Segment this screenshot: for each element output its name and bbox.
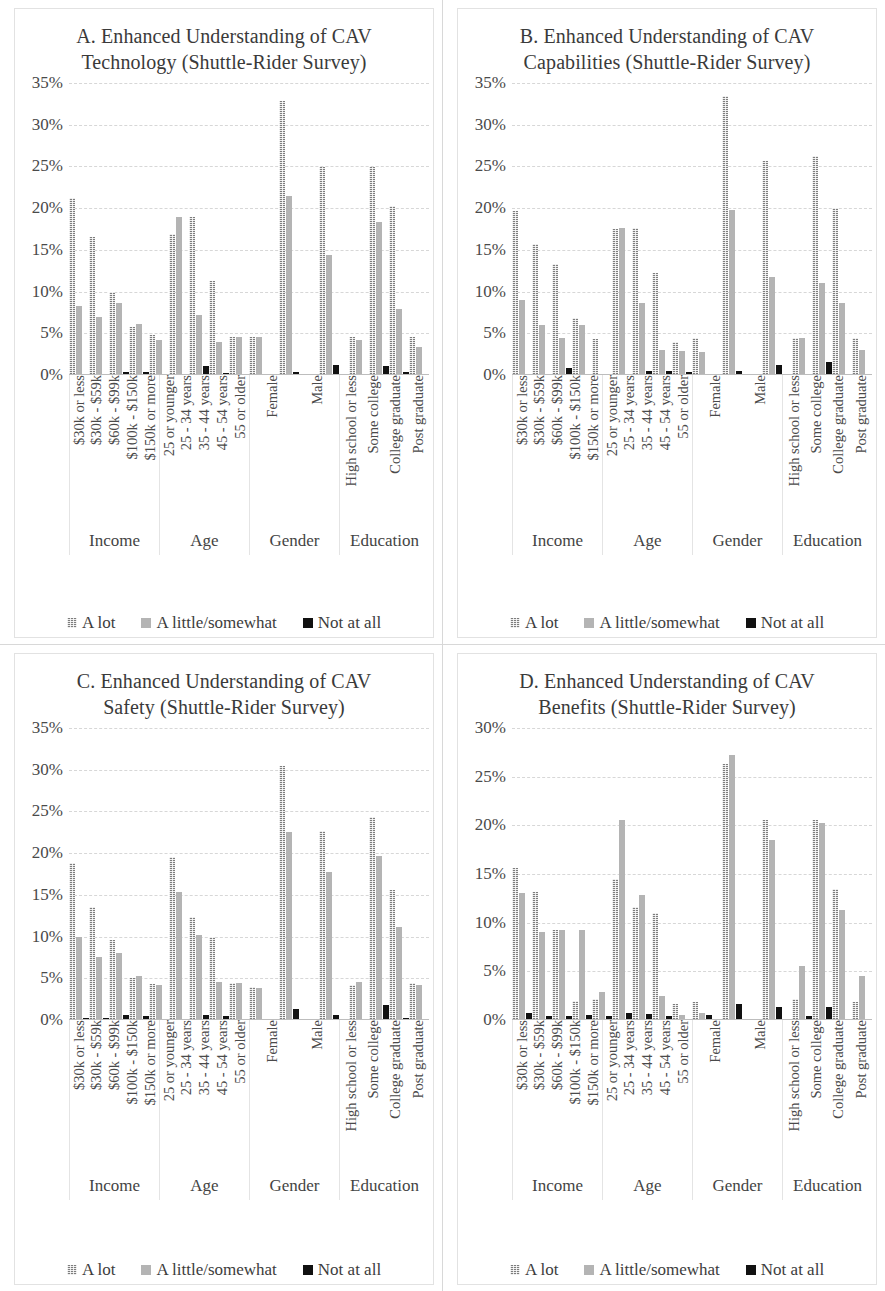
chart-a-legend-item-none[interactable]: Not at all — [303, 613, 381, 633]
chart-b-legend-item-alot[interactable]: A lot — [510, 613, 559, 633]
chart-d-xgroup-label: Age — [603, 1174, 692, 1200]
legend-swatch-alot-icon — [510, 1265, 520, 1275]
chart-a-xcat: College graduate — [385, 375, 407, 478]
chart-a-xcat: Some college — [362, 375, 384, 458]
chart-panel-b: B. Enhanced Understanding of CAV Capabil… — [443, 0, 885, 645]
chart-c-legend-item-none[interactable]: Not at all — [303, 1260, 381, 1280]
chart-a-category-bars — [129, 83, 149, 375]
chart-c-bar — [376, 856, 382, 1020]
chart-d-bar — [799, 966, 805, 1020]
chart-d-x-groups: $30k or less$30k - $59k$60k - $99k$100k … — [512, 1020, 872, 1200]
chart-c-xgroup-age: 25 or younger25 - 34 years35 - 44 years4… — [160, 1020, 250, 1200]
chart-c-xcats: 25 or younger25 - 34 years35 - 44 years4… — [160, 1020, 249, 1174]
chart-b-category-bars — [612, 83, 632, 375]
chart-c-xcat: Some college — [362, 1020, 384, 1103]
chart-c-xcat-label: Post graduate — [411, 1020, 426, 1103]
chart-d-category-bars — [712, 728, 752, 1020]
chart-d-xcat: $100k - $150k — [566, 1020, 584, 1109]
chart-a-legend-item-alot[interactable]: A lot — [67, 613, 116, 633]
chart-b-legend-item-none[interactable]: Not at all — [746, 613, 824, 633]
chart-b-group — [712, 83, 792, 375]
chart-c-xgroup-income: $30k or less$30k - $59k$60k - $99k$100k … — [69, 1020, 160, 1200]
chart-c-xcat-label: 55 or older — [233, 1020, 248, 1088]
chart-d-legend-item-alot[interactable]: A lot — [510, 1260, 559, 1280]
chart-a-bar — [109, 292, 115, 375]
chart-d-bar — [832, 889, 838, 1020]
chart-d-bar — [592, 999, 598, 1020]
chart-c-legend: A lotA little/somewhatNot at all — [15, 1260, 433, 1280]
chart-b-bar — [619, 228, 625, 375]
chart-a-bar — [129, 327, 135, 375]
chart-a-xcat-label: College graduate — [388, 375, 403, 478]
chart-b-xcat: Some college — [805, 375, 827, 458]
chart-c-xcat: 35 - 44 years — [196, 1020, 214, 1099]
chart-b-category-bars — [592, 83, 612, 375]
chart-c-category-bars — [69, 728, 89, 1020]
chart-c-bar — [409, 983, 415, 1020]
chart-b-xgroup-label: Income — [513, 529, 602, 555]
chart-b-xcat-label: Female — [708, 375, 723, 422]
chart-b-plot-area — [512, 83, 872, 375]
chart-c-ytick: 30% — [32, 760, 63, 780]
chart-b-xcat-label: $150k or more — [586, 375, 601, 464]
chart-d-bar — [652, 913, 658, 1020]
chart-d-xcat: 45 - 54 years — [656, 1020, 674, 1099]
chart-a-xcat-label: Post graduate — [411, 375, 426, 458]
chart-b-xcat-label: Post graduate — [854, 375, 869, 458]
chart-d-xcats: High school or lessSome collegeCollege g… — [783, 1020, 872, 1174]
chart-b-legend-label: A little/somewhat — [599, 613, 719, 633]
chart-b-group — [512, 83, 612, 375]
chart-b-legend-label: A lot — [525, 613, 559, 633]
legend-swatch-little-icon — [584, 1265, 594, 1275]
chart-d-xcat-label: 25 or younger — [605, 1020, 620, 1105]
chart-a-category-bars — [229, 83, 249, 375]
chart-c-ytick: 10% — [32, 927, 63, 947]
chart-c-xcat: Post graduate — [407, 1020, 429, 1103]
chart-c-xcat-label: $60k - $99k — [107, 1020, 122, 1094]
chart-d-legend-item-little[interactable]: A little/somewhat — [584, 1260, 719, 1280]
chart-a-xgroup-gender: FemaleMaleGender — [250, 375, 340, 555]
chart-d-xgroup-label: Education — [783, 1174, 872, 1200]
chart-c-x-groups: $30k or less$30k - $59k$60k - $99k$100k … — [69, 1020, 429, 1200]
chart-b-group — [792, 83, 872, 375]
chart-d-legend-item-none[interactable]: Not at all — [746, 1260, 824, 1280]
chart-c-category-bars — [389, 728, 409, 1020]
chart-c-plot-area — [69, 728, 429, 1020]
chart-d-xcat-label: $100k - $150k — [568, 1020, 583, 1109]
chart-b-title: B. Enhanced Understanding of CAV Capabil… — [458, 9, 876, 75]
chart-b-category-bars — [692, 83, 712, 375]
chart-b-xcat: $30k - $59k — [531, 375, 549, 449]
chart-d-bar — [762, 820, 768, 1020]
chart-c-legend-item-little[interactable]: A little/somewhat — [141, 1260, 276, 1280]
chart-d-bar — [659, 996, 665, 1020]
chart-d-bars — [512, 728, 872, 1020]
chart-b-xcat: Female — [693, 375, 738, 422]
chart-d-bar — [579, 930, 585, 1020]
chart-d-xcat-label: $150k or more — [586, 1020, 601, 1109]
chart-b-category-bars — [532, 83, 552, 375]
chart-c-xgroup-education: High school or lessSome collegeCollege g… — [340, 1020, 429, 1200]
chart-b-legend-item-little[interactable]: A little/somewhat — [584, 613, 719, 633]
chart-a-xcat-label: $150k or more — [143, 375, 158, 464]
chart-b-ytick: 15% — [475, 240, 506, 260]
chart-a-category-bars — [309, 83, 349, 375]
chart-c-xcat-label: 25 - 34 years — [179, 1020, 194, 1099]
chart-b-bar — [819, 283, 825, 375]
chart-b-bar — [572, 318, 578, 375]
chart-d-xcat-label: High school or less — [787, 1020, 802, 1136]
chart-b-xcat: Male — [738, 375, 783, 409]
chart-a-bar — [169, 234, 175, 375]
chart-b-xgroup-age: 25 or younger25 - 34 years35 - 44 years4… — [603, 375, 693, 555]
chart-c-title: C. Enhanced Understanding of CAV Safety … — [15, 654, 433, 720]
chart-b-xgroup-income: $30k or less$30k - $59k$60k - $99k$100k … — [512, 375, 603, 555]
chart-d-bar — [819, 823, 825, 1020]
chart-a-legend-item-little[interactable]: A little/somewhat — [141, 613, 276, 633]
chart-b-xcat-label: High school or less — [787, 375, 802, 491]
chart-b-bar — [679, 351, 685, 375]
chart-c-legend-item-alot[interactable]: A lot — [67, 1260, 116, 1280]
chart-d-legend-label: A little/somewhat — [599, 1260, 719, 1280]
chart-c-bar — [249, 987, 255, 1020]
chart-b-xcat: $150k or more — [584, 375, 602, 464]
chart-b-bar — [722, 96, 728, 375]
chart-b-bar — [612, 229, 618, 375]
